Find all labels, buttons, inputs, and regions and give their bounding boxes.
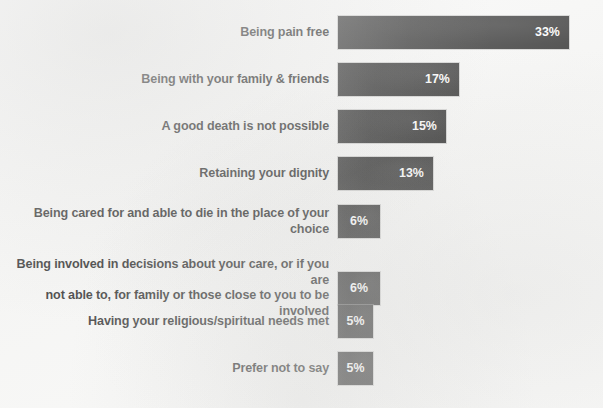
bar-value-label: 17%	[425, 73, 450, 85]
bar[interactable]: 5%	[338, 305, 373, 338]
chart-row: A good death is not possible 15%	[0, 110, 603, 143]
chart-row: Prefer not to say 5%	[0, 352, 603, 385]
bar-category-label: A good death is not possible	[0, 119, 338, 135]
chart-row: Retaining your dignity 13%	[0, 157, 603, 190]
bar[interactable]: 6%	[338, 272, 380, 305]
bar[interactable]: 33%	[338, 16, 569, 49]
chart-row: Being cared for and able to die in the p…	[0, 205, 603, 238]
horizontal-bar-chart: Being pain free 33% Being with your fami…	[0, 0, 603, 408]
bar-container: 5%	[338, 352, 373, 385]
bar-container: 17%	[338, 63, 459, 96]
bar-category-label: Being pain free	[0, 25, 338, 41]
bar-container: 13%	[338, 157, 433, 190]
bar-container: 6%	[338, 272, 380, 305]
bar[interactable]: 17%	[338, 63, 459, 96]
bar-category-label: Being cared for and able to die in the p…	[0, 206, 338, 237]
bar-container: 33%	[338, 16, 569, 49]
bar-value-label: 15%	[412, 120, 437, 132]
bar-value-label: 5%	[346, 315, 364, 327]
bar-container: 15%	[338, 110, 446, 143]
bar-value-label: 33%	[535, 26, 560, 38]
bar-value-label: 6%	[350, 215, 368, 227]
bar-category-label: Prefer not to say	[0, 361, 338, 377]
chart-row: Having your religious/spiritual needs me…	[0, 305, 603, 338]
bar[interactable]: 5%	[338, 352, 373, 385]
bar-value-label: 13%	[399, 167, 424, 179]
bar-category-label: Being with your family & friends	[0, 72, 338, 88]
bar-category-label: Having your religious/spiritual needs me…	[0, 314, 338, 330]
bar-container: 6%	[338, 205, 380, 238]
chart-row: Being with your family & friends 17%	[0, 63, 603, 96]
bar-value-label: 6%	[350, 282, 368, 294]
bar-category-label: Retaining your dignity	[0, 166, 338, 182]
bar[interactable]: 15%	[338, 110, 446, 143]
bar-value-label: 5%	[346, 362, 364, 374]
bar[interactable]: 6%	[338, 205, 380, 238]
chart-row: Being pain free 33%	[0, 16, 603, 49]
bar-container: 5%	[338, 305, 373, 338]
bar[interactable]: 13%	[338, 157, 433, 190]
